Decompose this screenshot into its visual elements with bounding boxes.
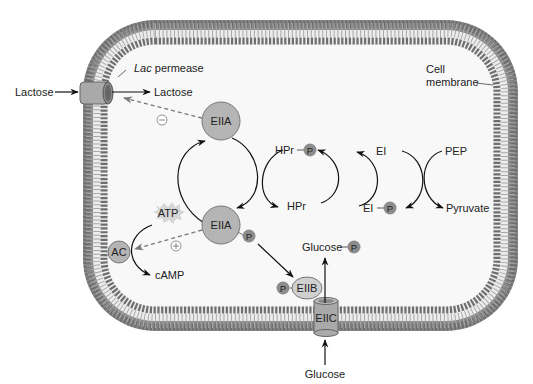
eiia-unphosphorylated: EIIA — [202, 102, 240, 140]
lac-permease-label: Lac permease — [134, 62, 204, 74]
svg-text:P: P — [280, 283, 286, 294]
lactose-outside-label: Lactose — [15, 86, 54, 98]
lactose-inside-label: Lactose — [154, 86, 193, 98]
phosphate-glucose: P — [348, 241, 361, 254]
svg-text:P: P — [387, 203, 393, 214]
glucose-outside-label: Glucose — [305, 368, 345, 380]
cell-label: Cell — [426, 63, 445, 75]
pyruvate-label: Pyruvate — [446, 202, 489, 214]
svg-text:P: P — [246, 231, 252, 242]
hpr-label: HPr — [287, 200, 306, 212]
ei-p-label: EI — [363, 202, 373, 214]
glucose-p-label: Glucose — [302, 241, 342, 253]
phosphate-hpr: P — [304, 144, 317, 157]
svg-text:P: P — [307, 145, 313, 156]
hpr-p-label: HPr — [275, 144, 294, 156]
svg-text:EIIB: EIIB — [297, 282, 318, 294]
ei-label: EI — [376, 145, 386, 157]
adenylate-cyclase: AC — [108, 241, 130, 263]
svg-text:ATP: ATP — [158, 207, 179, 219]
svg-text:EIIC: EIIC — [315, 312, 336, 324]
pep-label: PEP — [445, 145, 467, 157]
svg-text:P: P — [351, 242, 357, 253]
svg-text:EIIA: EIIA — [211, 219, 232, 231]
camp-label: cAMP — [155, 269, 184, 281]
eiic-transporter: EIIC — [314, 298, 338, 337]
lac-permease — [80, 82, 113, 104]
svg-text:AC: AC — [111, 246, 126, 258]
membrane-label: membrane — [426, 76, 479, 88]
svg-text:EIIA: EIIA — [211, 115, 232, 127]
pts-lactose-glucose-diagram: Lac permease Lactose Lactose Cell membra… — [0, 0, 533, 384]
phosphate-ei: P — [384, 202, 397, 215]
